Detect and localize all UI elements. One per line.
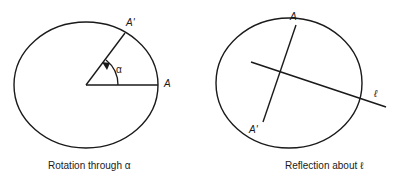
label-line-l: ℓ	[374, 88, 377, 99]
label-a-reflection: A	[290, 11, 297, 22]
angle-arrowhead-icon	[102, 62, 110, 70]
line-l	[251, 62, 386, 107]
caption-rotation: Rotation through α	[48, 160, 131, 171]
diagram-canvas	[0, 0, 404, 183]
chord-a-a-prime	[263, 25, 296, 122]
label-a-prime-reflection: A'	[249, 124, 258, 135]
reflection-circle	[216, 18, 362, 148]
rotation-diagram	[14, 22, 158, 148]
caption-reflection: Reflection about ℓ	[285, 160, 363, 171]
label-a-prime-rotation: A'	[126, 17, 135, 28]
label-alpha: α	[116, 64, 122, 75]
label-a-rotation: A	[164, 78, 171, 89]
radius-to-a-prime	[86, 33, 125, 85]
reflection-diagram	[216, 18, 386, 148]
